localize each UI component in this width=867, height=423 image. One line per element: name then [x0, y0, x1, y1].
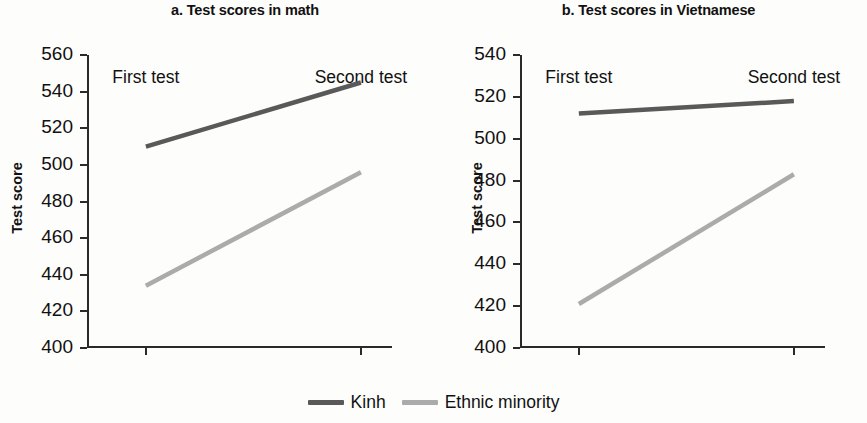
y-tick-label: 540	[17, 80, 73, 102]
y-tick-label: 520	[17, 116, 73, 138]
y-tick-label: 400	[450, 336, 506, 358]
series-line	[146, 82, 361, 146]
y-tick-label: 440	[450, 252, 506, 274]
y-tick: 520	[513, 96, 520, 98]
legend-label: Ethnic minority	[445, 392, 560, 413]
y-tick-label: 540	[450, 43, 506, 65]
y-tick: 540	[513, 54, 520, 56]
y-tick: 420	[513, 305, 520, 307]
y-tick-label: 560	[17, 43, 73, 65]
legend-item: Ethnic minority	[402, 392, 560, 413]
legend-swatch-icon	[402, 400, 438, 405]
legend-label: Kinh	[351, 392, 386, 413]
y-tick: 560	[80, 54, 87, 56]
series-line	[579, 174, 794, 304]
y-tick-label: 480	[17, 190, 73, 212]
y-tick: 500	[513, 138, 520, 140]
y-tick-label: 460	[450, 210, 506, 232]
y-tick: 480	[80, 201, 87, 203]
chart-panel-vietnamese: b. Test scores in Vietnamese Test score …	[430, 0, 867, 390]
series-line	[146, 172, 361, 286]
y-tick-label: 440	[17, 263, 73, 285]
y-tick-label: 500	[450, 127, 506, 149]
panel-a-title: a. Test scores in math	[0, 2, 460, 18]
y-tick-label: 480	[450, 169, 506, 191]
y-tick: 540	[80, 91, 87, 93]
legend-item: Kinh	[308, 392, 386, 413]
y-tick: 440	[80, 274, 87, 276]
panel-b-plot-area: 400420440460480500520540 First testSecon…	[520, 55, 825, 348]
y-tick: 400	[513, 347, 520, 349]
y-tick: 460	[80, 237, 87, 239]
legend-swatch-icon	[308, 400, 344, 405]
y-tick-label: 420	[17, 299, 73, 321]
y-tick: 420	[80, 310, 87, 312]
y-tick: 440	[513, 263, 520, 265]
panel-b-title: b. Test scores in Vietnamese	[430, 2, 867, 18]
y-tick-label: 460	[17, 226, 73, 248]
y-tick-label: 520	[450, 85, 506, 107]
y-tick-label: 400	[17, 336, 73, 358]
y-tick: 400	[80, 347, 87, 349]
chart-legend: KinhEthnic minority	[0, 392, 867, 413]
series-line	[579, 101, 794, 114]
panel-a-plot-area: 400420440460480500520540560 First testSe…	[87, 55, 392, 348]
figure-two-panel-line-charts: a. Test scores in math Test score 400420…	[0, 0, 867, 423]
y-tick: 520	[80, 127, 87, 129]
y-tick: 500	[80, 164, 87, 166]
chart-panel-math: a. Test scores in math Test score 400420…	[0, 0, 430, 390]
panel-b-series-lines	[520, 55, 825, 348]
y-tick: 480	[513, 180, 520, 182]
panel-a-series-lines	[87, 55, 392, 348]
y-tick: 460	[513, 221, 520, 223]
y-tick-label: 420	[450, 294, 506, 316]
y-tick-label: 500	[17, 153, 73, 175]
